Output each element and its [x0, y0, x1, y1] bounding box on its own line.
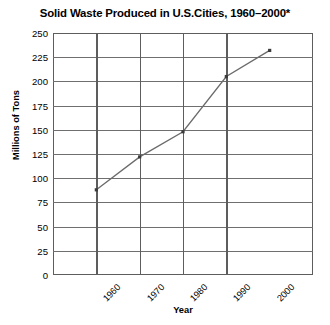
- x-axis-title: Year: [53, 305, 313, 315]
- y-tick-label: 175: [32, 100, 48, 111]
- chart-figure: Solid Waste Produced in U.S.Cities, 1960…: [0, 0, 330, 325]
- data-point-marker: [225, 75, 228, 78]
- y-tick-label: 150: [32, 124, 48, 135]
- y-tick-label: 100: [32, 173, 48, 184]
- y-tick-label: 50: [37, 221, 48, 232]
- data-point-marker: [181, 130, 184, 133]
- x-tick-label: 2000: [275, 282, 297, 304]
- x-tick-label: 1970: [145, 282, 167, 304]
- x-tick-label: 1960: [101, 282, 123, 304]
- y-tick-label: 25: [37, 245, 48, 256]
- x-tick-label: 1980: [188, 282, 210, 304]
- data-point-marker: [138, 155, 141, 158]
- data-series-line: [53, 33, 313, 275]
- chart-title: Solid Waste Produced in U.S.Cities, 1960…: [0, 7, 330, 19]
- series-polyline: [96, 50, 269, 189]
- data-point-marker: [268, 49, 271, 52]
- y-tick-label: 125: [32, 149, 48, 160]
- plot-area: 2502252001751501251007550250 19601970198…: [53, 33, 313, 275]
- x-tick-label: 1990: [231, 282, 253, 304]
- y-tick-label: 250: [32, 28, 48, 39]
- y-tick-label: 75: [37, 197, 48, 208]
- y-tick-label: 225: [32, 52, 48, 63]
- series-markers: [95, 49, 272, 192]
- data-point-marker: [95, 188, 98, 191]
- y-tick-label: 200: [32, 76, 48, 87]
- y-tick-label: 0: [43, 270, 48, 281]
- y-axis-title: Millions of Tons: [11, 65, 21, 185]
